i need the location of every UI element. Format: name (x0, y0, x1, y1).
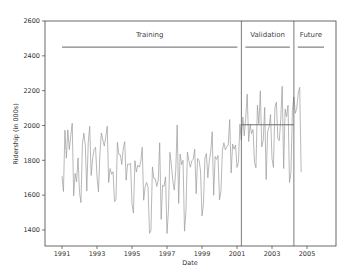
partition-label-future: Future (300, 31, 322, 39)
x-axis-label: Date (182, 259, 198, 267)
ridership-line (62, 86, 301, 233)
partition-label-validation: Validation (250, 31, 285, 39)
y-tick-label: 2200 (23, 87, 40, 95)
x-tick-label: 2003 (264, 250, 281, 258)
x-tick-label: 1997 (159, 250, 176, 258)
y-tick-label: 2400 (23, 52, 40, 60)
x-tick-label: 1993 (89, 250, 106, 258)
ridership-chart: TrainingValidationFuture 140016001800200… (0, 0, 354, 278)
x-tick-label: 2001 (229, 250, 246, 258)
y-tick-label: 2600 (23, 17, 40, 25)
plot-frame (45, 21, 336, 246)
x-tick-label: 1991 (54, 250, 71, 258)
x-tick-label: 1999 (194, 250, 211, 258)
plot-area: TrainingValidationFuture (62, 21, 324, 246)
y-tick-label: 2000 (23, 122, 40, 130)
x-tick-label: 1995 (124, 250, 141, 258)
y-tick-label: 1400 (23, 226, 40, 234)
y-tick-label: 1600 (23, 191, 40, 199)
y-axis-label: Ridership (in 000s) (12, 103, 20, 164)
partition-label-training: Training (135, 31, 164, 39)
x-tick-label: 2005 (299, 250, 316, 258)
y-tick-label: 1800 (23, 157, 40, 165)
